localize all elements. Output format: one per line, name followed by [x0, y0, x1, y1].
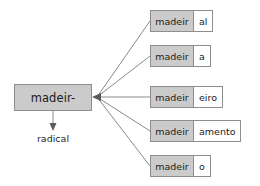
stem-label: madeir [155, 51, 189, 62]
suffix-label: al [199, 16, 207, 27]
radical-box[interactable]: madeir- [14, 84, 92, 111]
radical-caption-label: radical [37, 133, 69, 144]
stem-cell: madeir [150, 155, 194, 177]
arrowhead-to-radical [92, 93, 101, 101]
derived-word-5[interactable]: madeir o [150, 155, 211, 177]
derived-word-1[interactable]: madeir al [150, 10, 213, 32]
derived-word-2[interactable]: madeir a [150, 45, 211, 67]
connector-line-1 [97, 21, 150, 97]
stem-cell: madeir [150, 86, 194, 108]
connector-line-2 [97, 56, 150, 97]
suffix-cell: a [194, 45, 211, 67]
connector-line-5 [97, 97, 150, 166]
suffix-label: a [199, 51, 205, 62]
stem-cell: madeir [150, 120, 194, 142]
suffix-label: amento [199, 126, 235, 137]
suffix-cell: amento [194, 120, 241, 142]
suffix-cell: o [194, 155, 211, 177]
stem-cell: madeir [150, 10, 194, 32]
suffix-cell: al [194, 10, 213, 32]
stem-label: madeir [155, 16, 189, 27]
stem-label: madeir [155, 126, 189, 137]
stem-label: madeir [155, 92, 189, 103]
stem-cell: madeir [150, 45, 194, 67]
derivation-diagram: madeir- radical madeir al madeir a madei… [0, 0, 260, 186]
derived-word-4[interactable]: madeir amento [150, 120, 241, 142]
suffix-label: eiro [199, 92, 217, 103]
radical-caption: radical [14, 133, 92, 144]
arrowhead-to-caption [50, 123, 57, 131]
suffix-label: o [199, 161, 205, 172]
radical-label: madeir- [31, 91, 76, 105]
stem-label: madeir [155, 161, 189, 172]
connector-line-4 [97, 97, 150, 131]
suffix-cell: eiro [194, 86, 223, 108]
derived-word-3[interactable]: madeir eiro [150, 86, 223, 108]
